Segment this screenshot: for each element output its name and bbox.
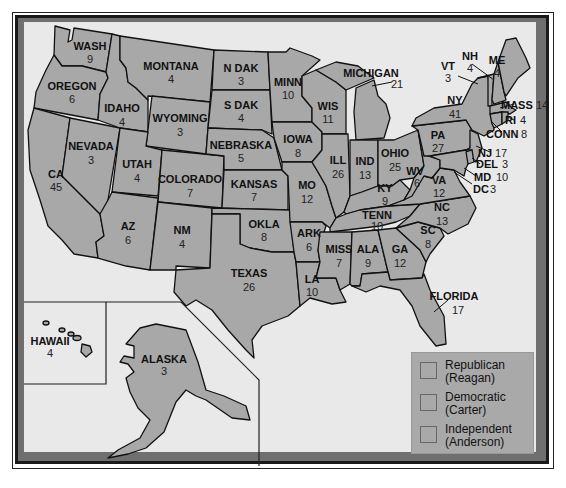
- label-nc: NC: [434, 201, 450, 213]
- label-mo: MO: [298, 179, 316, 191]
- votes-de: 3: [502, 158, 508, 170]
- votes-id: 4: [119, 116, 125, 128]
- votes-ar: 6: [306, 241, 312, 253]
- votes-mo: 12: [301, 193, 313, 205]
- label-ms: MISS: [326, 243, 353, 255]
- votes-co: 7: [187, 187, 193, 199]
- label-ca: CA: [48, 168, 64, 180]
- votes-ga: 12: [394, 257, 406, 269]
- state-wy[interactable]: [146, 96, 210, 154]
- hawaii-island-2: [59, 328, 65, 332]
- label-mt: MONTANA: [143, 60, 198, 72]
- hawaii-island-4: [73, 336, 81, 341]
- label-sd: S DAK: [224, 99, 258, 111]
- label-or: OREGON: [48, 80, 97, 92]
- votes-ks: 7: [251, 191, 257, 203]
- votes-wv: 6: [414, 177, 420, 189]
- state-fl[interactable]: [352, 272, 446, 346]
- votes-nd: 3: [238, 75, 244, 87]
- label-ri: RI: [505, 114, 516, 126]
- label-ia: IOWA: [283, 133, 312, 145]
- hawaii-island-1: [43, 321, 49, 325]
- label-md: MD: [474, 171, 491, 183]
- label-mn: MINN: [274, 76, 302, 88]
- votes-ri: 4: [520, 114, 526, 126]
- votes-ok: 8: [261, 231, 267, 243]
- state-ks[interactable]: [222, 170, 288, 210]
- label-nv: NEVADA: [68, 140, 114, 152]
- label-id: IDAHO: [104, 102, 140, 114]
- legend-candidate-carter: (Carter): [445, 404, 506, 417]
- votes-dc: 3: [490, 183, 496, 195]
- label-ga: GA: [392, 243, 409, 255]
- votes-tx: 26: [243, 281, 255, 293]
- label-ks: KANSAS: [231, 178, 277, 190]
- state-me[interactable]: [498, 38, 530, 96]
- votes-az: 6: [125, 234, 131, 246]
- leader-vt: [458, 76, 478, 84]
- label-ky: KY: [377, 182, 393, 194]
- legend-item-democratic: Democratic (Carter): [420, 391, 506, 417]
- votes-ma: 14: [536, 99, 548, 111]
- label-tx: TEXAS: [231, 267, 268, 279]
- state-nm[interactable]: [150, 202, 212, 270]
- label-me: ME: [489, 54, 506, 66]
- votes-il: 26: [332, 168, 344, 180]
- legend-swatch-independent: [420, 426, 437, 443]
- votes-me: 4: [494, 67, 500, 79]
- votes-al: 9: [365, 257, 371, 269]
- votes-ky: 9: [382, 195, 388, 207]
- votes-ne: 5: [238, 152, 244, 164]
- label-wy: WYOMING: [153, 112, 208, 124]
- label-ak: ALASKA: [141, 353, 187, 365]
- votes-nh: 4: [467, 62, 473, 74]
- legend-item-republican: Republican (Reagan): [420, 359, 505, 385]
- votes-mt: 4: [168, 73, 174, 85]
- votes-ny: 41: [449, 108, 461, 120]
- label-vt: VT: [441, 60, 455, 72]
- votes-va: 12: [433, 187, 445, 199]
- votes-oh: 25: [389, 161, 401, 173]
- label-de: DEL: [476, 158, 498, 170]
- label-ar: ARK: [297, 227, 321, 239]
- hawaii-big-island: [81, 344, 92, 357]
- label-az: AZ: [121, 220, 136, 232]
- votes-mi: 21: [391, 78, 403, 90]
- votes-ms: 7: [336, 257, 342, 269]
- legend-candidate-reagan: (Reagan): [445, 372, 505, 385]
- label-nd: N DAK: [224, 62, 259, 74]
- votes-wy: 3: [177, 126, 183, 138]
- legend-swatch-republican: [420, 362, 437, 379]
- state-ak[interactable]: [108, 324, 250, 458]
- label-la: LA: [305, 273, 320, 285]
- votes-mn: 10: [282, 89, 294, 101]
- label-ny: NY: [447, 94, 463, 106]
- votes-la: 10: [306, 286, 318, 298]
- label-il: ILL: [330, 154, 347, 166]
- votes-tn: 10: [371, 220, 383, 232]
- votes-sc: 8: [425, 238, 431, 250]
- votes-nm: 4: [179, 238, 185, 250]
- label-sc: SC: [420, 224, 435, 236]
- votes-wa: 9: [87, 53, 93, 65]
- label-wv: WV: [406, 165, 424, 177]
- votes-fl: 17: [452, 304, 464, 316]
- label-hi: HAWAII: [30, 335, 69, 347]
- label-oh: OHIO: [381, 147, 410, 159]
- label-ma: MASS: [501, 99, 533, 111]
- label-fl: FLORIDA: [430, 290, 479, 302]
- votes-wi: 11: [322, 113, 333, 125]
- label-pa: PA: [431, 129, 446, 141]
- votes-pa: 27: [432, 142, 444, 154]
- state-de[interactable]: [466, 150, 474, 164]
- votes-in: 13: [359, 169, 371, 181]
- label-dc: DC: [473, 183, 489, 195]
- label-wa: WASH: [74, 40, 107, 52]
- votes-or: 6: [69, 93, 75, 105]
- label-wi: WIS: [318, 100, 339, 112]
- legend-candidate-anderson: (Anderson): [445, 436, 512, 449]
- state-mi[interactable]: [354, 80, 390, 140]
- label-ok: OKLA: [248, 218, 279, 230]
- votes-sd: 4: [238, 112, 244, 124]
- votes-ut: 4: [134, 172, 140, 184]
